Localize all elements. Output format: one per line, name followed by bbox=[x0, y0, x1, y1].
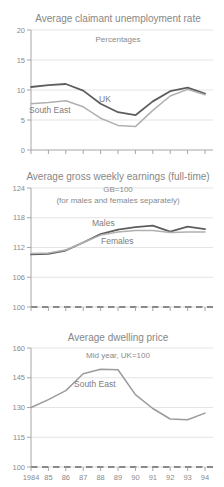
x-tick-label: 90 bbox=[131, 473, 139, 482]
x-tick-label: 85 bbox=[44, 473, 52, 482]
y-tick-label: 106 bbox=[12, 273, 25, 282]
y-tick-label: 100 bbox=[12, 463, 25, 472]
earnings-chart-subtitle-line1: GB=100 bbox=[20, 185, 216, 194]
x-tick-label: 93 bbox=[183, 473, 191, 482]
uk-series-label: UK bbox=[99, 94, 111, 104]
x-tick-label: 87 bbox=[79, 473, 87, 482]
x-tick-label: 91 bbox=[149, 473, 157, 482]
dwelling-price-chart-title: Average dwelling price bbox=[20, 332, 216, 343]
females-series-label: Females bbox=[101, 236, 134, 246]
y-tick-label: 20 bbox=[17, 26, 25, 35]
males-series-label: Males bbox=[92, 218, 115, 228]
y-tick-label: 112 bbox=[13, 243, 25, 252]
unemployment-chart-subtitle: Percentages bbox=[20, 35, 216, 44]
x-tick-label: 88 bbox=[96, 473, 104, 482]
y-tick-label: 5 bbox=[21, 116, 25, 125]
y-tick-label: 15 bbox=[17, 56, 25, 65]
x-tick-label: 92 bbox=[166, 473, 174, 482]
south-east-dwelling-series-label: South East bbox=[74, 379, 116, 389]
south-east-series-label: South East bbox=[29, 105, 71, 115]
x-tick-label: 1984 bbox=[23, 473, 40, 482]
y-tick-label: 0 bbox=[21, 146, 25, 155]
y-tick-label: 145 bbox=[12, 373, 25, 382]
y-tick-label: 100 bbox=[12, 303, 25, 312]
x-tick-label: 89 bbox=[114, 473, 122, 482]
earnings-chart-subtitle-line2: (for males and females separately) bbox=[20, 196, 216, 205]
dwelling-price-chart-subtitle: Mid year, UK=100 bbox=[20, 351, 216, 360]
x-tick-label: 94 bbox=[201, 473, 209, 482]
x-tick-label: 86 bbox=[62, 473, 70, 482]
series-line-south-east bbox=[31, 369, 205, 420]
statistics-panel: 0510152010010611211812410011513014516019… bbox=[0, 0, 224, 487]
earnings-chart-title: Average gross weekly earnings (full-time… bbox=[20, 171, 216, 182]
y-tick-label: 118 bbox=[13, 213, 25, 222]
unemployment-chart-title: Average claimant unemployment rate bbox=[20, 13, 216, 24]
y-tick-label: 130 bbox=[12, 403, 25, 412]
y-tick-label: 115 bbox=[13, 433, 25, 442]
y-tick-label: 10 bbox=[17, 86, 25, 95]
